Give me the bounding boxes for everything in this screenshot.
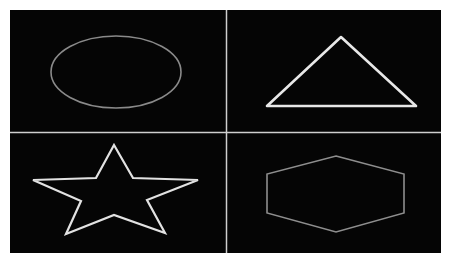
figure-svg bbox=[0, 0, 449, 262]
shapes-figure bbox=[0, 0, 449, 262]
